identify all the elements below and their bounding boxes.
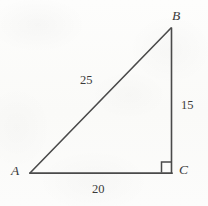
right-angle-marker	[162, 162, 172, 172]
vertex-label-b: B	[172, 9, 180, 23]
geometry-figure: B A C 25 15 20	[0, 0, 208, 206]
side-length-label-bc: 15	[181, 99, 194, 112]
vertex-label-a: A	[11, 164, 19, 178]
side-ab-line	[30, 28, 171, 173]
triangle-drawing	[0, 0, 208, 206]
vertex-label-c: C	[179, 163, 188, 177]
side-length-label-ab: 25	[80, 74, 93, 87]
side-length-label-ac: 20	[92, 183, 105, 196]
